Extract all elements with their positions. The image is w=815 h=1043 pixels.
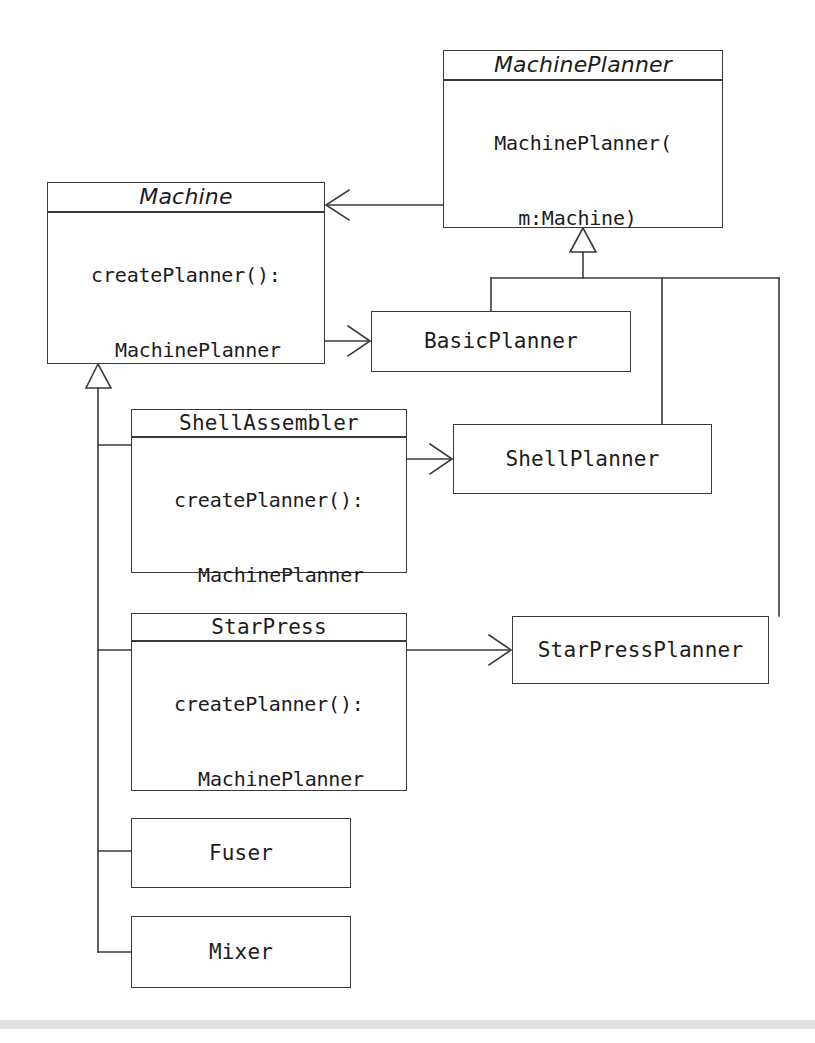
- class-name-shell-assembler: ShellAssembler: [132, 410, 406, 436]
- class-name-basic-planner: BasicPlanner: [372, 312, 630, 371]
- connector-generalization-bus-machine: [86, 364, 131, 952]
- connector-machineplanner-to-machine: [326, 190, 443, 220]
- uml-class-diagram-canvas: MachinePlanner MachinePlanner( m:Machine…: [0, 0, 815, 1043]
- class-box-star-press[interactable]: StarPress createPlanner(): MachinePlanne…: [131, 613, 407, 791]
- operation-line: createPlanner():: [91, 263, 281, 288]
- page-footer-band: [0, 1020, 815, 1029]
- class-box-machine-planner[interactable]: MachinePlanner MachinePlanner( m:Machine…: [443, 50, 723, 228]
- class-box-star-press-planner[interactable]: StarPressPlanner: [512, 616, 769, 684]
- class-operations-machine: createPlanner(): MachinePlanner: [48, 212, 324, 413]
- class-name-mixer: Mixer: [132, 917, 350, 987]
- class-operations-machine-planner: MachinePlanner( m:Machine): [444, 80, 722, 281]
- class-box-fuser[interactable]: Fuser: [131, 818, 351, 888]
- connector-machine-to-basicplanner: [325, 326, 370, 356]
- class-name-star-press: StarPress: [132, 614, 406, 640]
- operation-line: MachinePlanner: [174, 767, 364, 792]
- connector-generalization-bus-machineplanner: [491, 228, 779, 616]
- connector-shellassembler-to-shellplanner: [407, 444, 452, 474]
- class-operations-star-press: createPlanner(): MachinePlanner: [132, 641, 406, 842]
- operation-line: MachinePlanner(: [494, 131, 672, 156]
- connector-starpress-to-starpressplanner: [407, 635, 511, 665]
- class-name-machine-planner: MachinePlanner: [444, 51, 722, 79]
- class-name-fuser: Fuser: [132, 819, 350, 887]
- operation-line: createPlanner():: [174, 488, 364, 513]
- class-name-machine: Machine: [48, 183, 324, 211]
- class-box-shell-assembler[interactable]: ShellAssembler createPlanner(): MachineP…: [131, 409, 407, 573]
- class-box-mixer[interactable]: Mixer: [131, 916, 351, 988]
- class-name-shell-planner: ShellPlanner: [454, 425, 711, 493]
- operation-line: MachinePlanner: [91, 338, 281, 363]
- operation-line: MachinePlanner: [174, 563, 364, 588]
- operation-line: createPlanner():: [174, 692, 364, 717]
- operation-line: m:Machine): [494, 206, 672, 231]
- class-box-machine[interactable]: Machine createPlanner(): MachinePlanner: [47, 182, 325, 364]
- class-name-star-press-planner: StarPressPlanner: [513, 617, 768, 683]
- class-operations-shell-assembler: createPlanner(): MachinePlanner: [132, 437, 406, 638]
- class-box-shell-planner[interactable]: ShellPlanner: [453, 424, 712, 494]
- class-box-basic-planner[interactable]: BasicPlanner: [371, 311, 631, 372]
